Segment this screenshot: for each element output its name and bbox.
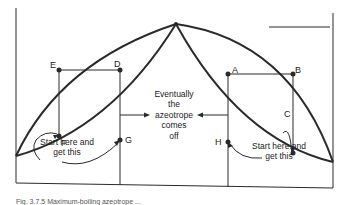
point-apex — [174, 22, 178, 26]
label-C: C — [284, 109, 291, 119]
arrowhead-right — [197, 113, 203, 118]
point-E — [57, 68, 62, 73]
azeotrope-diagram: E D F A B C G H Eventually the azeotrope… — [0, 0, 344, 205]
center-note-line-5: off — [169, 131, 179, 141]
point-A — [226, 72, 231, 77]
point-H — [226, 140, 231, 145]
label-A: A — [232, 65, 238, 75]
center-note-line-2: the — [168, 99, 180, 109]
center-note-line-4: comes — [161, 120, 186, 130]
center-note-line-3: azeotrope — [155, 110, 193, 120]
label-E: E — [50, 60, 56, 70]
bottom-axis — [16, 183, 333, 188]
label-H: H — [215, 137, 222, 147]
left-note-line-2: get this — [53, 147, 80, 157]
point-G — [118, 138, 123, 143]
right-note-line-2: get this — [265, 151, 292, 161]
label-G: G — [125, 135, 132, 145]
figure-caption: Fig. 3.7.5 Maximum-boiling azeotrope ... — [16, 198, 141, 205]
arrowhead-left — [144, 113, 150, 118]
center-note-line-1: Eventually — [154, 89, 194, 99]
left-note-line-1: Start here and — [40, 137, 94, 147]
label-B: B — [295, 65, 301, 75]
label-D: D — [114, 59, 121, 69]
right-note-line-1: Start here and — [252, 141, 306, 151]
